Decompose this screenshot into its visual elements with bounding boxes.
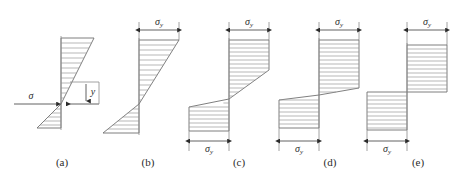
panel-e-sigma-y-bottom-label: σy [383, 143, 392, 156]
panel-b: σy [103, 16, 179, 169]
panel-e-top-hatching [407, 49, 447, 89]
panel-b-sigma-y-top-label: σy [155, 16, 164, 29]
panel-b-caption: (b) [142, 156, 155, 169]
panel-d-sigma-y-top-label: σy [335, 16, 344, 29]
figure-canvas: σ y (a) σy [0, 0, 454, 177]
y-distance-label: y [90, 86, 96, 97]
panel-d: σy [279, 16, 359, 169]
panel-e: σy [367, 16, 447, 169]
panel-d-top-hatching [319, 44, 359, 92]
panel-a-top-stress-block [61, 38, 94, 104]
panel-d-bottom-hatching [279, 100, 319, 124]
panel-c-sigma-y-top-label: σy [245, 16, 254, 29]
panel-c-sigma-y-bottom-label: σy [205, 143, 214, 156]
panel-a-bottom-stress-block [37, 104, 61, 128]
panel-c-caption: (c) [233, 156, 246, 169]
panel-e-sigma-y-top-label: σy [423, 16, 432, 29]
panel-d-sigma-y-bottom-label: σy [295, 143, 304, 156]
panel-a-bottom-hatching [40, 109, 61, 125]
panel-e-top-stress-block [407, 45, 447, 92]
panel-d-top-stress-block [319, 40, 359, 95]
panel-c-bottom-hatching [189, 103, 229, 127]
panel-e-bottom-hatching [367, 96, 407, 128]
panel-d-bottom-stress-block [279, 95, 319, 128]
panel-b-bottom-hatching [108, 109, 139, 129]
panel-d-caption: (d) [324, 156, 337, 169]
panel-b-top-stress-block [139, 40, 179, 104]
panel-b-bottom-stress-block [103, 104, 139, 133]
panel-a-caption: (a) [56, 156, 69, 169]
panel-e-caption: (e) [412, 156, 425, 169]
panel-c-top-stress-block [229, 40, 269, 99]
sigma-label: σ [29, 90, 35, 101]
panel-a: σ y (a) [14, 36, 99, 169]
panel-e-bottom-stress-block [367, 92, 407, 130]
panel-c: σy [189, 16, 269, 169]
panel-c-top-hatching [229, 44, 269, 96]
stress-distribution-figure: σ y (a) σy [0, 0, 454, 177]
panel-c-bottom-stress-block [189, 99, 229, 131]
